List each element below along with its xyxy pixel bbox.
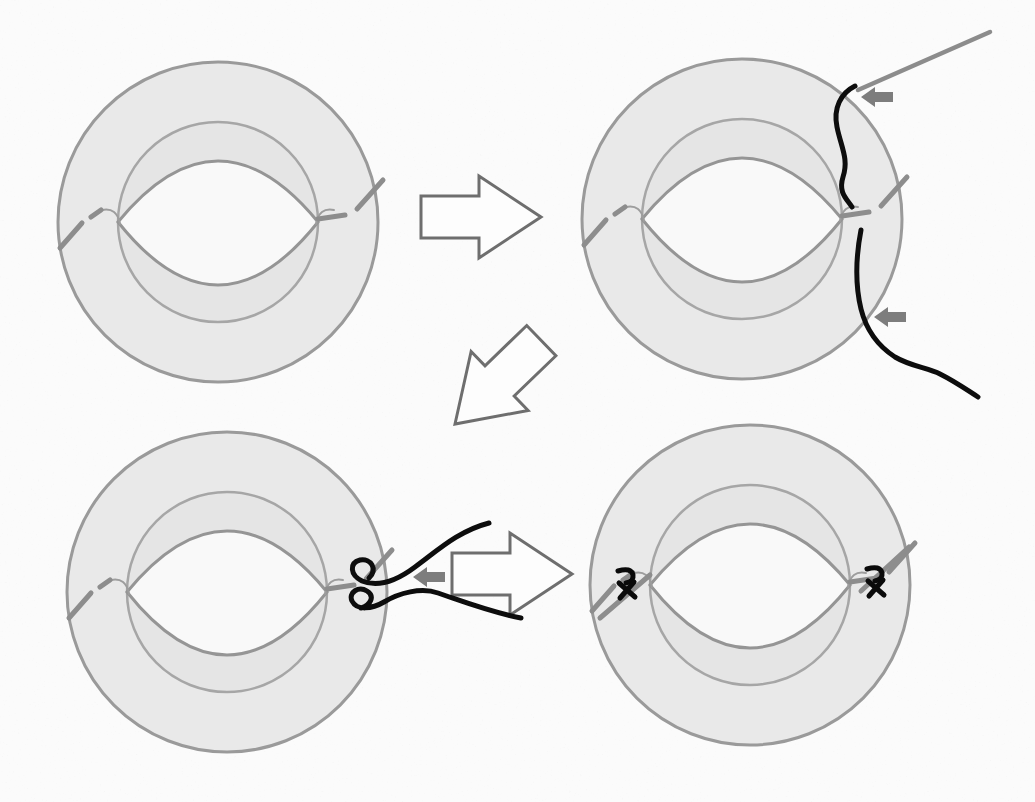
- figure-canvas: [0, 0, 1035, 802]
- eye-globe-step-2: [582, 59, 907, 379]
- surgical-steps-figure: [0, 0, 1035, 802]
- eye-globe-step-1: [58, 62, 383, 382]
- step-4-panel: [590, 425, 915, 745]
- step-1-panel: [58, 62, 383, 382]
- eye-globe-step-3: [67, 432, 392, 752]
